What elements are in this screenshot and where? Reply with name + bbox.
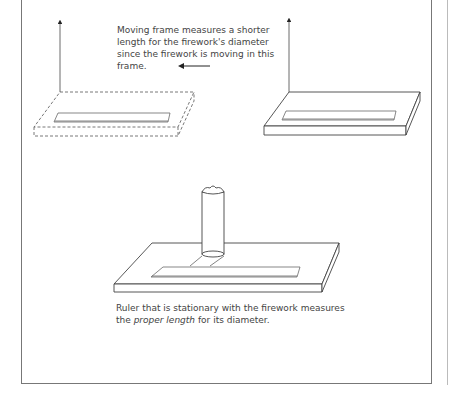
firework-icon xyxy=(202,186,224,257)
moving-frame-caption: Moving frame measures a shorter length f… xyxy=(117,24,287,72)
stationary-caption: Ruler that is stationary with the firewo… xyxy=(116,302,356,326)
moving-frame-ruler xyxy=(54,113,170,122)
stationary-frame-ruler xyxy=(282,111,396,120)
firework-ruler xyxy=(151,267,300,277)
caption-text-end: for its diameter. xyxy=(195,315,270,325)
proper-length-term: proper length xyxy=(134,315,195,325)
